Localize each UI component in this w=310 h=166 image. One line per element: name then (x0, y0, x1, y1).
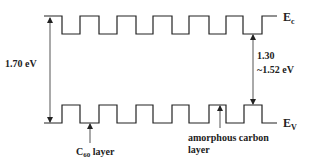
amorphous-carbon-label-line2: layer (188, 144, 210, 155)
right-gap-label-line1: 1.30 (257, 50, 275, 61)
conduction-band-label: Ec (283, 10, 295, 26)
left-gap-label: 1.70 eV (5, 58, 37, 69)
right-gap-label-line2: ~1.52 eV (257, 64, 295, 75)
c60-layer-label: C60 layer (76, 146, 115, 159)
amorphous-carbon-label-line1: amorphous carbon (188, 132, 269, 143)
band-diagram: Ec EV 1.70 eV 1.30 ~1.52 eV C60 layer am… (0, 0, 310, 166)
valence-band-label: EV (283, 116, 297, 132)
conduction-band-line (44, 16, 277, 34)
valence-band-line (44, 105, 277, 123)
